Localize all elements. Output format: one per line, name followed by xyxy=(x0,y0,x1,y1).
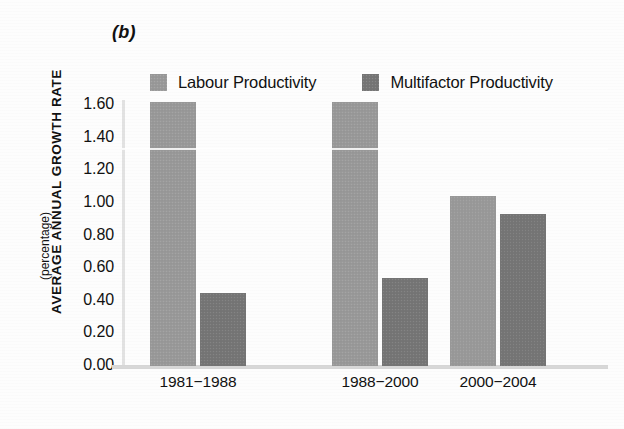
legend-label: Multifactor Productivity xyxy=(390,73,552,91)
chart-legend: Labour ProductivityMultifactor Productiv… xyxy=(150,70,553,94)
y-axis-tick-label: 1.00 xyxy=(52,194,114,210)
y-axis-tick-label: 0.40 xyxy=(52,292,114,308)
y-axis-tick-label: 0.20 xyxy=(52,324,114,340)
bar-labour-productivity xyxy=(450,196,496,366)
bar-multifactor-productivity xyxy=(200,293,246,366)
scan-artifact-line xyxy=(122,148,608,150)
y-axis-tick-labels: 1.601.401.201.000.800.600.400.200.00 xyxy=(52,0,114,429)
legend-item: Multifactor Productivity xyxy=(362,73,552,91)
y-axis-tick-label: 1.40 xyxy=(52,129,114,145)
y-axis-tick-label: 0.80 xyxy=(52,227,114,243)
bar-multifactor-productivity xyxy=(382,278,428,366)
plot-area xyxy=(122,100,608,370)
bar-labour-productivity xyxy=(332,102,378,366)
y-axis-line xyxy=(122,100,125,368)
y-axis-tick-label: 1.60 xyxy=(52,96,114,112)
bar-labour-productivity xyxy=(150,102,196,366)
x-axis-category-labels: 1981−19881988−20002000−2004 xyxy=(122,372,608,398)
y-axis-tick-label: 1.20 xyxy=(52,161,114,177)
legend-swatch-dark-icon xyxy=(362,74,379,91)
y-axis-tick-label: 0.00 xyxy=(52,357,114,373)
figure-panel: (b) AVERAGE ANNUAL GROWTH RATE (percenta… xyxy=(0,0,624,429)
bar-multifactor-productivity xyxy=(500,214,546,366)
legend-label: Labour Productivity xyxy=(178,73,316,91)
x-axis-label: 1981−1988 xyxy=(128,372,268,392)
x-axis-label: 2000−2004 xyxy=(428,372,568,392)
panel-label: (b) xyxy=(112,22,136,43)
y-axis-subtitle: (percentage) xyxy=(38,171,52,321)
legend-swatch-light-icon xyxy=(150,74,167,91)
legend-item: Labour Productivity xyxy=(150,73,316,91)
y-axis-tick-label: 0.60 xyxy=(52,259,114,275)
